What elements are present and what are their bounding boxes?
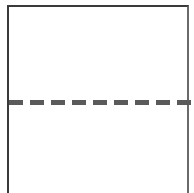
dash-segment <box>135 100 149 105</box>
dashed-divider-line <box>9 100 191 105</box>
rectangle-frame <box>7 5 189 193</box>
dash-segment <box>156 100 170 105</box>
dash-segment <box>9 100 23 105</box>
dash-segment <box>177 100 191 105</box>
dash-segment <box>114 100 128 105</box>
dash-segment <box>51 100 65 105</box>
dash-segment <box>93 100 107 105</box>
dash-segment <box>72 100 86 105</box>
dash-segment <box>30 100 44 105</box>
